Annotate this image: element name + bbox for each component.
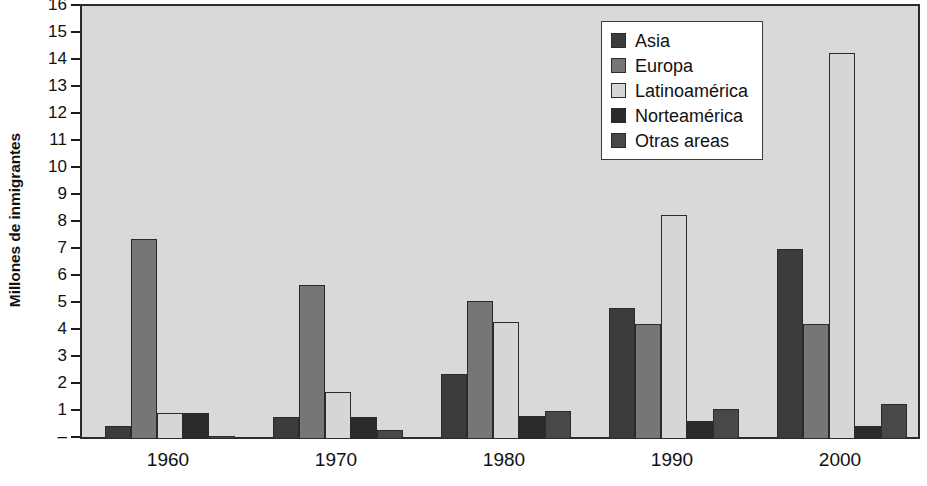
bar (777, 249, 803, 439)
bar (881, 404, 907, 439)
bar (273, 417, 299, 439)
bar (713, 409, 739, 439)
x-axis-tick-label: 2000 (819, 449, 861, 471)
legend-item-label: Otras areas (635, 132, 729, 150)
legend-item-label: Asia (635, 32, 670, 50)
y-axis-tick-mark (71, 247, 80, 249)
y-axis-tick-label: 14 (48, 50, 67, 67)
y-axis-tick-mark (71, 139, 80, 141)
legend-item: Europa (611, 53, 748, 78)
y-axis-tick-label: 16 (48, 0, 67, 13)
y-axis-tick-label: 6 (58, 266, 67, 283)
bars-layer (82, 6, 918, 437)
bar (299, 285, 325, 439)
y-axis-tick-label: 12 (48, 104, 67, 121)
y-axis-tick-mark (71, 301, 80, 303)
chart-figure: Millones de inmigrantes –123456789101112… (0, 0, 927, 486)
bar (441, 374, 467, 439)
y-axis-tick-label: 5 (58, 293, 67, 310)
bar (209, 436, 235, 439)
bar (105, 426, 131, 440)
y-axis-tick-mark (71, 58, 80, 60)
y-axis-title-label: Millones de inmigrantes (6, 133, 24, 307)
bar (829, 53, 855, 439)
bar (131, 239, 157, 439)
legend: AsiaEuropaLatinoaméricaNorteaméricaOtras… (601, 21, 763, 160)
bar (545, 411, 571, 439)
y-axis-tick-label: 9 (58, 185, 67, 202)
legend-item-label: Norteamérica (635, 107, 743, 125)
x-axis-tick-label: 1960 (147, 449, 189, 471)
legend-item: Asia (611, 28, 748, 53)
bar-group (105, 6, 235, 437)
bar (519, 416, 545, 439)
y-axis-tick-label: 11 (49, 131, 67, 148)
y-axis-tick-label: 1 (58, 401, 67, 418)
plot-area (80, 4, 920, 439)
y-axis-tick-label: 7 (58, 239, 67, 256)
y-axis-tick-label: 3 (58, 347, 67, 364)
legend-item-label: Europa (635, 57, 693, 75)
legend-item: Norteamérica (611, 103, 748, 128)
bar (661, 215, 687, 439)
y-axis-tick-mark (71, 355, 80, 357)
bar (377, 430, 403, 439)
y-axis: –12345678910111213141516 (30, 0, 80, 440)
y-axis-tick-mark (71, 409, 80, 411)
y-axis-tick-label: 2 (58, 374, 67, 391)
bar (351, 417, 377, 439)
y-axis-tick-mark (71, 274, 80, 276)
bar-group (777, 6, 907, 437)
y-axis-tick-mark (71, 4, 80, 6)
bar (803, 324, 829, 439)
bar (467, 301, 493, 439)
legend-swatch-icon (611, 33, 626, 48)
bar (687, 421, 713, 439)
legend-item: Latinoamérica (611, 78, 748, 103)
legend-swatch-icon (611, 108, 626, 123)
y-axis-tick-label: 10 (48, 158, 67, 175)
legend-swatch-icon (611, 83, 626, 98)
legend-swatch-icon (611, 133, 626, 148)
y-axis-tick-mark (71, 31, 80, 33)
bar (325, 392, 351, 439)
bar (855, 426, 881, 440)
legend-swatch-icon (611, 58, 626, 73)
x-axis-tick-label: 1990 (651, 449, 693, 471)
bar (493, 322, 519, 439)
y-axis-tick-mark (71, 112, 80, 114)
bar (635, 324, 661, 439)
bar-group (273, 6, 403, 437)
bar-group (441, 6, 571, 437)
x-axis: 19601970198019902000 (80, 441, 920, 486)
bar (609, 308, 635, 439)
y-axis-tick-label: 4 (58, 320, 67, 337)
y-axis-tick-label: 15 (48, 23, 67, 40)
y-axis-tick-mark (71, 85, 80, 87)
y-axis-tick-label: 13 (48, 77, 67, 94)
y-axis-tick-mark (71, 193, 80, 195)
y-axis-tick-label: 8 (58, 212, 67, 229)
y-axis-title: Millones de inmigrantes (0, 0, 30, 440)
y-axis-tick-mark (71, 220, 80, 222)
x-axis-tick-label: 1980 (483, 449, 525, 471)
y-axis-tick-label: – (58, 428, 67, 445)
y-axis-tick-mark (71, 166, 80, 168)
legend-item: Otras areas (611, 128, 748, 153)
y-axis-tick-mark (71, 436, 80, 438)
legend-item-label: Latinoamérica (635, 82, 748, 100)
y-axis-tick-mark (71, 328, 80, 330)
y-axis-tick-mark (71, 382, 80, 384)
x-axis-tick-label: 1970 (315, 449, 357, 471)
bar (183, 413, 209, 439)
bar (157, 413, 183, 439)
